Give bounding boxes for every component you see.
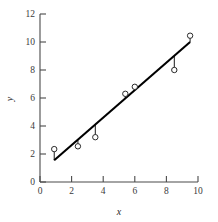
y-tick-label: 2 [30,149,35,159]
x-tick-label: 10 [193,186,203,196]
data-point [123,91,128,96]
y-axis-title: y [4,96,15,102]
y-axis-ticks [40,14,46,182]
x-axis-ticks [40,176,198,182]
x-tick-label: 2 [69,186,74,196]
y-tick-label: 12 [26,9,36,19]
regression-fit-line [54,42,190,160]
data-point [187,33,192,38]
data-point [132,84,137,89]
y-axis-tick-labels: 024681012 [26,9,36,187]
chart-canvas: 024681012 y 0246810 x [0,0,218,222]
y-tick-label: 10 [26,37,36,47]
y-tick-label: 4 [30,121,35,131]
x-tick-label: 8 [164,186,169,196]
scatter-plot-figure: 024681012 y 0246810 x [0,0,218,222]
y-axis-group: 024681012 y [4,9,46,187]
data-point [93,135,98,140]
x-axis-group: 0246810 x [38,176,203,217]
data-point-markers [52,33,193,152]
y-tick-label: 8 [30,65,35,75]
data-point [172,67,177,72]
x-tick-label: 6 [132,186,137,196]
x-axis-title: x [116,206,122,217]
x-tick-label: 0 [38,186,43,196]
data-point [75,144,80,149]
data-point [52,146,57,151]
fit-line-segment [54,42,190,160]
y-tick-label: 6 [30,93,35,103]
x-tick-label: 4 [101,186,106,196]
x-axis-tick-labels: 0246810 [38,186,203,196]
y-tick-label: 0 [30,177,35,187]
